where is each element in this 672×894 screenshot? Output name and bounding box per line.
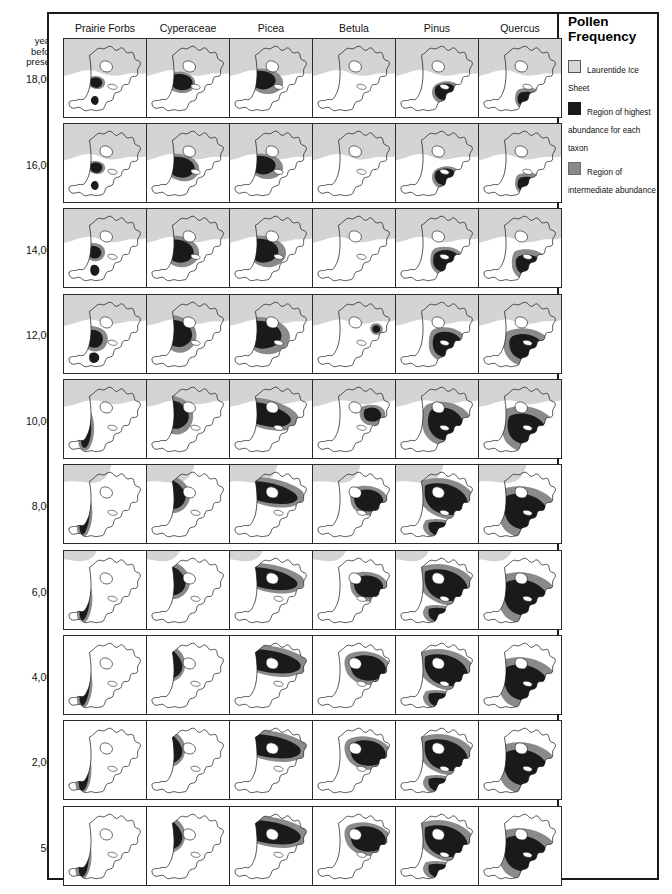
map-cell-betula-18000: [312, 38, 396, 118]
map-cell-prairie-forbs-16000: [63, 123, 147, 203]
map-cell-prairie-forbs-12000: [63, 294, 147, 374]
map-cell-picea-14000: [229, 208, 313, 288]
column-header-cyperaceae: Cyperaceae: [146, 22, 230, 34]
great-lakes: [274, 766, 283, 771]
map-cell-betula-8000: [312, 464, 396, 544]
map-cell-prairie-forbs-500: [63, 806, 147, 886]
map-cell-pinus-500: [395, 806, 479, 886]
map-cell-betula-2000: [312, 720, 396, 800]
map-cell-cyperaceae-2000: [146, 720, 230, 800]
coastline: [152, 472, 224, 537]
hudson-bay: [183, 573, 195, 584]
coastline: [152, 814, 224, 879]
map-cell-prairie-forbs-8000: [63, 464, 147, 544]
great-lakes: [108, 425, 117, 430]
column-header-quercus: Quercus: [478, 22, 562, 34]
legend-items: Laurentide Ice Sheet Region of highest a…: [568, 59, 662, 203]
map-cell-quercus-4000: [478, 635, 562, 715]
map-cell-betula-500: [312, 806, 396, 886]
great-lakes: [357, 340, 366, 345]
ice-sheet-region: [230, 551, 263, 561]
great-lakes: [108, 681, 117, 686]
legend-panel: Pollen Frequency Laurentide Ice Sheet Re…: [566, 14, 662, 44]
map-cell-picea-16000: [229, 123, 313, 203]
legend-item-highest-abundance: Region of highest abundance for each tax…: [568, 101, 662, 155]
map-cell-pinus-12000: [395, 294, 479, 374]
map-cell-cyperaceae-8000: [146, 464, 230, 544]
ice-sheet-region: [396, 551, 429, 561]
map-cell-cyperaceae-16000: [146, 123, 230, 203]
map-cell-cyperaceae-18000: [146, 38, 230, 118]
coastline: [152, 728, 224, 793]
hudson-bay: [100, 743, 112, 754]
map-cell-quercus-14000: [478, 208, 562, 288]
great-lakes: [274, 852, 283, 857]
map-cell-quercus-8000: [478, 464, 562, 544]
map-cell-prairie-forbs-18000: [63, 38, 147, 118]
legend-title-line-1: Pollen: [568, 14, 609, 29]
legend-item-intermediate-abundance: Region of intermediate abundance: [568, 161, 662, 197]
map-cell-cyperaceae-10000: [146, 379, 230, 459]
map-cell-betula-14000: [312, 208, 396, 288]
map-cell-betula-16000: [312, 123, 396, 203]
highest-abundance-region: [90, 77, 103, 105]
hudson-bay: [183, 829, 195, 840]
highest-abundance-region: [90, 162, 103, 190]
ice-sheet-region: [147, 551, 180, 561]
great-lakes: [274, 596, 283, 601]
coastline: [152, 558, 224, 623]
ice-sheet-region: [64, 551, 97, 561]
great-lakes: [191, 681, 200, 686]
great-lakes: [191, 510, 200, 515]
great-lakes: [357, 425, 366, 430]
column-header-betula: Betula: [312, 22, 396, 34]
great-lakes: [357, 84, 366, 89]
great-lakes: [274, 681, 283, 686]
legend-label-intermediate-abundance: Region of intermediate abundance: [568, 168, 656, 195]
great-lakes: [191, 596, 200, 601]
ice-sheet-region: [313, 465, 361, 483]
great-lakes: [108, 596, 117, 601]
legend-title-line-2: Frequency: [568, 29, 662, 44]
legend-swatch-intermediate-abundance-icon: [568, 162, 581, 175]
ice-sheet-region: [479, 465, 527, 483]
map-cell-betula-12000: [312, 294, 396, 374]
map-cell-cyperaceae-500: [146, 806, 230, 886]
great-lakes: [108, 169, 117, 174]
hudson-bay: [183, 487, 195, 498]
map-cell-quercus-500: [478, 806, 562, 886]
map-cell-quercus-6000: [478, 550, 562, 630]
great-lakes: [191, 766, 200, 771]
map-cell-picea-500: [229, 806, 313, 886]
map-cell-quercus-10000: [478, 379, 562, 459]
ice-sheet-region: [313, 551, 346, 561]
map-cell-pinus-16000: [395, 123, 479, 203]
legend-item-ice-sheet: Laurentide Ice Sheet: [568, 59, 662, 95]
ice-sheet-region: [64, 465, 112, 483]
column-header-prairie-forbs: Prairie Forbs: [63, 22, 147, 34]
great-lakes: [108, 510, 117, 515]
map-cell-prairie-forbs-14000: [63, 208, 147, 288]
map-cell-picea-18000: [229, 38, 313, 118]
map-cell-quercus-2000: [478, 720, 562, 800]
great-lakes: [191, 852, 200, 857]
map-cell-pinus-4000: [395, 635, 479, 715]
map-cell-cyperaceae-6000: [146, 550, 230, 630]
map-cell-pinus-10000: [395, 379, 479, 459]
great-lakes: [357, 254, 366, 259]
great-lakes: [108, 254, 117, 259]
map-cell-pinus-6000: [395, 550, 479, 630]
coastline: [152, 643, 224, 708]
map-cell-quercus-16000: [478, 123, 562, 203]
great-lakes: [108, 340, 117, 345]
legend-swatch-highest-abundance-icon: [568, 102, 581, 115]
column-header-pinus: Pinus: [395, 22, 479, 34]
map-cell-pinus-8000: [395, 464, 479, 544]
hudson-bay: [183, 743, 195, 754]
great-lakes: [108, 84, 117, 89]
ice-sheet-region: [479, 551, 512, 561]
map-cell-prairie-forbs-6000: [63, 550, 147, 630]
map-cell-prairie-forbs-10000: [63, 379, 147, 459]
map-cell-quercus-18000: [478, 38, 562, 118]
map-cell-cyperaceae-14000: [146, 208, 230, 288]
